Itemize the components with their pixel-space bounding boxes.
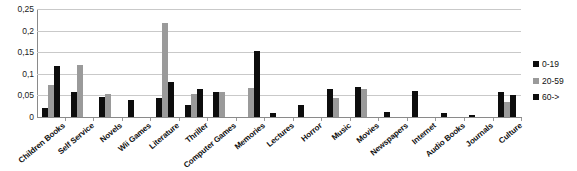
bar-group (493, 9, 521, 117)
legend-item: 0-19 (533, 60, 577, 69)
x-axis-tick-label: Movies (355, 121, 381, 145)
legend-swatch-icon (533, 78, 539, 84)
bar-group (322, 9, 350, 117)
x-axis-tick-label: Novels (99, 121, 124, 144)
bar (333, 98, 339, 117)
y-axis-tick-label: 0,15 (0, 48, 34, 57)
bar (128, 100, 134, 117)
bar (197, 89, 203, 117)
x-axis-tick-label: Literature (148, 121, 181, 151)
legend: 0-1920-5960-> (533, 60, 577, 102)
bar-groups (37, 9, 521, 117)
x-axis-tick-label: Music (330, 121, 353, 142)
bar-group (436, 9, 464, 117)
bar-group (122, 9, 150, 117)
bar-group (208, 9, 236, 117)
x-axis-tick-label: Computer Games (182, 121, 238, 170)
bar (168, 82, 174, 117)
bar-chart: 0,250,20,150,10,050 Children BooksSelf S… (0, 0, 577, 171)
bar (469, 115, 475, 117)
legend-item: 20-59 (533, 77, 577, 86)
bar (510, 95, 516, 117)
bar (412, 91, 418, 117)
bar (441, 113, 447, 117)
bar (384, 112, 390, 117)
bar-group (236, 9, 264, 117)
bar-group (350, 9, 378, 117)
bar (54, 66, 60, 117)
bar-group (265, 9, 293, 117)
bar-group (293, 9, 321, 117)
x-axis-tick-label: Horror (299, 121, 323, 144)
bar-group (407, 9, 435, 117)
bar (298, 105, 304, 117)
y-axis-tick-label: 0,2 (0, 26, 34, 35)
x-axis-tick-label: Children Books (17, 121, 67, 165)
x-axis-tick-label: Journals (464, 121, 495, 149)
bar-group (179, 9, 207, 117)
y-axis-tick-label: 0,05 (0, 91, 34, 100)
x-axis-tick-label: Lectures (265, 121, 296, 149)
bar (105, 94, 111, 117)
bar (254, 51, 260, 117)
y-axis-tick-label: 0,1 (0, 70, 34, 79)
legend-swatch-icon (533, 61, 539, 67)
bar-group (464, 9, 492, 117)
legend-item: 60-> (533, 93, 577, 102)
y-axis-labels: 0,250,20,150,10,050 (0, 0, 34, 127)
bar-group (379, 9, 407, 117)
bar (77, 65, 83, 117)
legend-swatch-icon (533, 94, 539, 100)
bar-group (37, 9, 65, 117)
bar (361, 89, 367, 117)
y-axis-tick-label: 0 (0, 113, 34, 122)
x-axis-labels: Children BooksSelf ServiceNovelsWii Game… (37, 121, 522, 171)
bar-group (94, 9, 122, 117)
plot-area (37, 9, 521, 117)
x-axis-tick-label: Memories (233, 121, 267, 151)
x-axis-tick-label: Culture (497, 121, 524, 145)
legend-label: 60-> (542, 93, 559, 102)
legend-label: 0-19 (542, 60, 559, 69)
bar (270, 113, 276, 117)
bar (219, 92, 225, 117)
bar-group (151, 9, 179, 117)
bar-group (65, 9, 93, 117)
legend-label: 20-59 (542, 77, 564, 86)
y-axis-tick-label: 0,25 (0, 5, 34, 14)
